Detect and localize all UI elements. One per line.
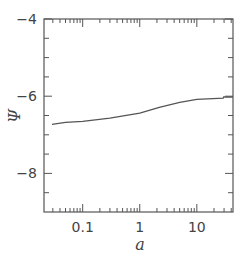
- line-chart: 0.1110 −4−6−8 a Ψ: [0, 0, 246, 260]
- x-tick-label: 1: [135, 219, 144, 235]
- y-tick-label: −8: [16, 165, 37, 181]
- x-tick-label: 0.1: [72, 219, 94, 235]
- y-tick-label: −4: [16, 11, 37, 27]
- x-axis-tick-labels: 0.1110: [72, 219, 206, 235]
- y-axis-ticks: [44, 19, 233, 193]
- x-axis-ticks: [53, 19, 231, 212]
- x-axis-label: a: [135, 235, 145, 254]
- y-axis-tick-labels: −4−6−8: [16, 11, 37, 181]
- x-tick-label: 10: [188, 219, 206, 235]
- y-axis-label: Ψ: [5, 108, 24, 123]
- data-line: [52, 97, 233, 124]
- y-tick-label: −6: [16, 88, 37, 104]
- plot-frame: [44, 19, 233, 212]
